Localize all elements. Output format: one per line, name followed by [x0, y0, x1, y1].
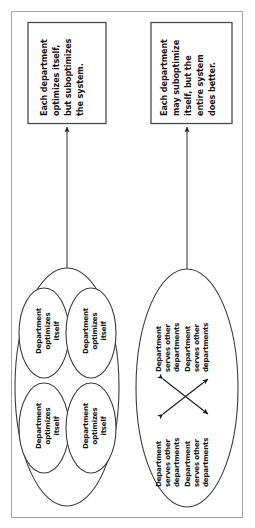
node-left-2-line-1: Department [82, 296, 90, 366]
node-right-2-line-3: departments [202, 323, 210, 372]
node-right-1-line-3: departments [173, 323, 181, 372]
callout-left-line-4: the system. [76, 63, 85, 116]
node-right-2-line-2: serves other [193, 324, 201, 372]
node-right-4-line-3: departments [202, 438, 210, 487]
callout-left-line-2: optimizes itself, [52, 45, 61, 116]
callout-right-line-1: Each department [160, 39, 169, 116]
node-left-1-line-1: Department [35, 296, 43, 366]
node-right-3-line-1: Department [155, 441, 163, 487]
node-right-2-line-1: Department [184, 326, 192, 372]
node-right-4-line-1: Department [184, 441, 192, 487]
node-right-3-line-2: serves other [164, 439, 172, 487]
node-left-3-line-1: Department [35, 391, 43, 461]
callout-left-line-1: Each department [40, 39, 49, 116]
node-left-4-line-1: Department [82, 391, 90, 461]
node-right-3-line-3: departments [173, 438, 181, 487]
callout-left-line-3: but suboptimizes [64, 39, 73, 116]
node-right-4-line-2: serves other [193, 439, 201, 487]
node-left-2-line-3: itself [100, 296, 108, 366]
node-right-1-line-1: Department [155, 326, 163, 372]
callout-right-line-4: entire system [196, 54, 205, 116]
node-left-4-line-3: itself [100, 391, 108, 461]
callout-right-line-3: itself, but the [184, 55, 193, 116]
callout-right-line-2: may suboptimize [172, 40, 181, 116]
callout-right-line-5: does better. [208, 62, 217, 116]
node-left-4-line-2: optimizes [91, 391, 99, 461]
node-left-1-line-2: optimizes [44, 296, 52, 366]
node-left-2-line-2: optimizes [91, 296, 99, 366]
node-left-3-line-2: optimizes [44, 391, 52, 461]
node-right-1-line-2: serves other [164, 324, 172, 372]
node-left-1-line-3: itself [53, 296, 61, 366]
diagram-canvas: Each department optimizes itself, but su… [0, 0, 255, 528]
node-left-3-line-3: itself [53, 391, 61, 461]
